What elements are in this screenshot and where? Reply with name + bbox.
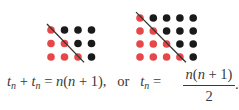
red-dot (61, 40, 69, 48)
dot-grid-n4 (136, 12, 197, 62)
black-dot (163, 14, 171, 22)
equals-sign: = (149, 73, 164, 89)
black-dot (88, 53, 96, 61)
black-dot (61, 26, 69, 34)
red-dot (150, 40, 158, 48)
black-dot (74, 40, 82, 48)
dot-grid-n3 (47, 24, 95, 62)
red-dot (136, 53, 144, 61)
black-dot (189, 27, 197, 35)
black-dot (189, 40, 197, 48)
black-dot (189, 14, 197, 22)
rhs-product: n(n + 1), (56, 73, 106, 89)
red-dot (163, 40, 171, 48)
period: . (235, 76, 239, 93)
black-dot (88, 40, 96, 48)
red-dot (47, 40, 55, 48)
black-dot (176, 27, 184, 35)
red-dot (61, 53, 69, 61)
black-dot (176, 40, 184, 48)
black-dot (189, 53, 197, 61)
red-dot (150, 53, 158, 61)
plus-sign: + (16, 73, 31, 89)
red-dot (136, 40, 144, 48)
black-dot (88, 26, 96, 34)
fraction-denominator: 2 (183, 88, 235, 105)
fraction-bar (183, 85, 235, 86)
fraction-numerator: n(n + 1) (183, 66, 235, 83)
red-dot (150, 27, 158, 35)
or-connector: or (106, 73, 140, 89)
red-dot (47, 53, 55, 61)
fraction: n(n + 1) 2 (183, 66, 235, 105)
red-dot (136, 27, 144, 35)
black-dot (74, 26, 82, 34)
equals-sign: = (41, 73, 56, 89)
equation-line: tn + tn = n(n + 1), or tn = (7, 74, 165, 89)
red-dot (163, 53, 171, 61)
black-dot (150, 14, 158, 22)
black-dot (176, 14, 184, 22)
black-dot (163, 27, 171, 35)
